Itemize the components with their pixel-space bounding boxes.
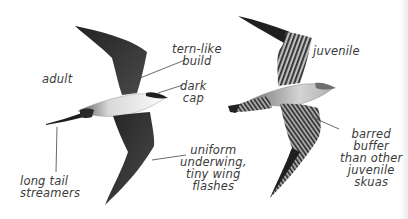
annotation-long-tail-streamers: long tail streamers — [20, 175, 80, 199]
annotation-barred-buffer: barred buffer than other juvenile skuas — [340, 128, 402, 188]
annotation-dark-cap: dark cap — [180, 80, 207, 104]
label-adult: adult — [42, 73, 72, 85]
adult-upper-wing — [75, 26, 147, 95]
annotation-uniform-underwing: uniform underwing, tiny wing flashes — [180, 144, 247, 192]
annotation-tern-like-build: tern-like build — [172, 43, 222, 67]
adult-lower-wing — [105, 112, 154, 205]
label-juvenile: juvenile — [313, 45, 360, 57]
leader-tail — [56, 127, 57, 172]
adult-tail-streamers — [46, 113, 84, 125]
illustration-canvas: adult juvenile tern-like build dark cap … — [0, 0, 408, 219]
juvenile-upper-wingtip — [238, 16, 290, 44]
juvenile-head — [315, 83, 336, 90]
